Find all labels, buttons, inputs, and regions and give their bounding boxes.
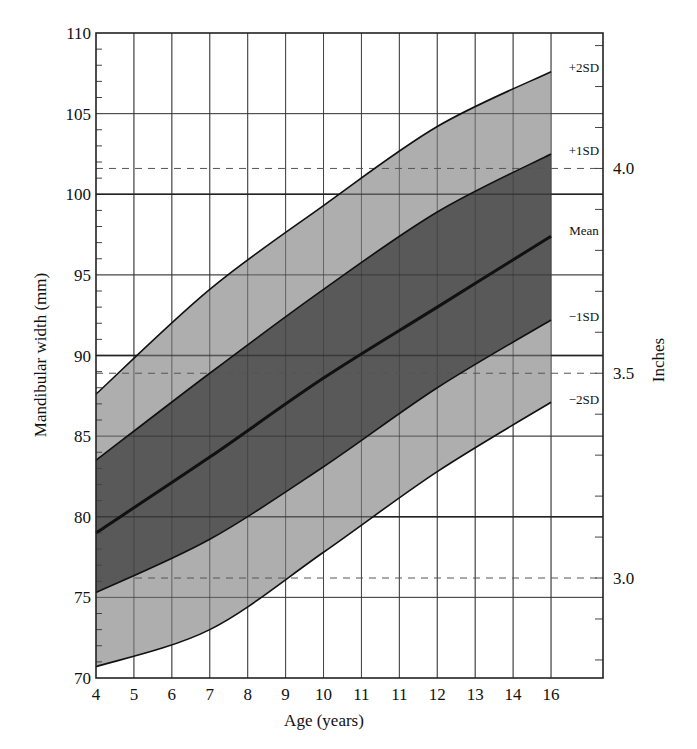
- series-label: +1SD: [569, 143, 599, 158]
- series-label: −2SD: [569, 392, 599, 407]
- y2-tick-label: 3.5: [613, 364, 634, 383]
- x-tick-label: 12: [429, 685, 446, 704]
- x-tick-label: 7: [206, 685, 215, 704]
- x-tick-label: 13: [467, 685, 484, 704]
- y2-axis-title: Inches: [649, 338, 668, 382]
- y-tick-label: 105: [66, 105, 92, 124]
- x-tick-label: 6: [168, 685, 177, 704]
- series-label: Mean: [569, 223, 599, 238]
- x-tick-label: 16: [543, 685, 560, 704]
- x-tick-label: 9: [281, 685, 290, 704]
- y2-axis-ticks: 3.03.54.0: [613, 159, 634, 588]
- y-tick-label: 95: [74, 266, 91, 285]
- x-axis-title: Age (years): [284, 711, 364, 730]
- y-tick-label: 100: [66, 185, 92, 204]
- x-tick-label: 11: [391, 685, 407, 704]
- x-tick-label: 14: [505, 685, 523, 704]
- x-tick-label: 11: [353, 685, 369, 704]
- y2-tick-label: 4.0: [613, 159, 634, 178]
- x-tick-label: 5: [130, 685, 139, 704]
- x-tick-label: 8: [243, 685, 252, 704]
- x-axis-ticks: 45678910111112131416: [92, 685, 560, 704]
- y-tick-label: 80: [74, 508, 91, 527]
- series-label: −1SD: [569, 309, 599, 324]
- y-tick-label: 90: [74, 347, 91, 366]
- y-tick-label: 110: [66, 24, 91, 43]
- y-axis-title: Mandibular width (mm): [31, 273, 50, 437]
- y-tick-label: 85: [74, 427, 91, 446]
- y2-tick-label: 3.0: [613, 569, 634, 588]
- x-tick-label: 10: [315, 685, 332, 704]
- series-label: +2SD: [569, 60, 599, 75]
- growth-chart: 707580859095100105110 456789101111121314…: [0, 0, 697, 749]
- y-tick-label: 70: [74, 669, 91, 688]
- y-tick-label: 75: [74, 588, 91, 607]
- x-tick-label: 4: [92, 685, 101, 704]
